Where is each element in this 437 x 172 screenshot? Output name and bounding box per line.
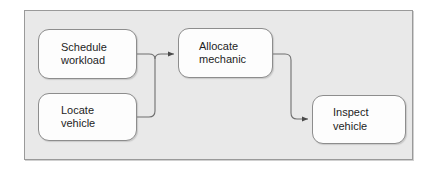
node-inspect-vehicle-line2: vehicle bbox=[313, 120, 367, 134]
node-locate-vehicle-line1: Locate bbox=[39, 104, 94, 118]
node-locate-vehicle-line2: vehicle bbox=[39, 117, 95, 131]
node-schedule-workload[interactable]: Schedule workload bbox=[38, 29, 137, 79]
node-schedule-workload-line2: workload bbox=[39, 54, 105, 68]
node-allocate-mechanic-line1: Allocate bbox=[179, 40, 238, 54]
node-allocate-mechanic[interactable]: Allocate mechanic bbox=[178, 28, 273, 78]
diagram-canvas: Schedule workload Locate vehicle Allocat… bbox=[0, 0, 437, 172]
node-allocate-mechanic-line2: mechanic bbox=[179, 53, 246, 67]
node-schedule-workload-line1: Schedule bbox=[39, 41, 107, 55]
node-locate-vehicle[interactable]: Locate vehicle bbox=[38, 93, 137, 141]
node-inspect-vehicle-line1: Inspect bbox=[313, 106, 368, 120]
node-inspect-vehicle[interactable]: Inspect vehicle bbox=[312, 95, 406, 144]
